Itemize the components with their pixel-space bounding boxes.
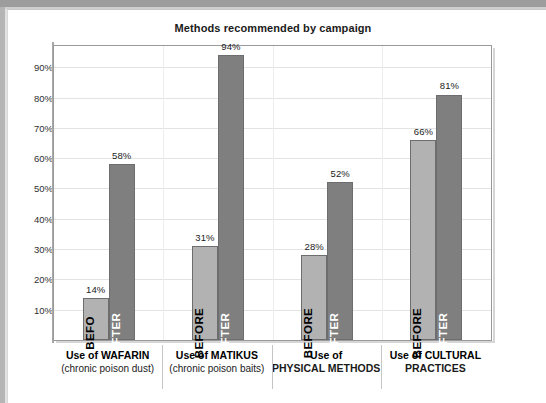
y-axis-tick-label: 10% <box>7 304 53 315</box>
category-label-line1: Use of WAFARIN <box>53 349 162 362</box>
category-label-line2: PRACTICES <box>381 362 490 375</box>
bar-after: AFTER <box>327 182 353 340</box>
bar-value-label: 31% <box>195 232 214 243</box>
bar-value-label: 28% <box>305 241 324 252</box>
category-label: Use of CULTURALPRACTICES <box>381 349 490 375</box>
y-axis-tick-label: 50% <box>7 183 53 194</box>
y-axis-tick-label: 20% <box>7 274 53 285</box>
bar-after: AFTER <box>436 95 462 341</box>
y-axis: 10%20%30%40%50%60%70%80%90% <box>0 45 53 342</box>
category-separator <box>381 345 382 389</box>
y-axis-tick-label: 80% <box>7 92 53 103</box>
bar-value-label: 81% <box>440 80 459 91</box>
page-top-edge <box>0 0 546 7</box>
chart-title: Methods recommended by campaign <box>0 22 546 34</box>
plot-right-shadow <box>493 48 495 342</box>
bar-value-label: 58% <box>112 150 131 161</box>
category-label: Use ofPHYSICAL METHODS <box>272 349 381 375</box>
category-label: Use of MATIKUS(chronic poison baits) <box>162 349 271 375</box>
bar-before: BEFORE <box>301 255 327 340</box>
gridline-vertical <box>163 46 164 340</box>
category-label-line1: Use of MATIKUS <box>162 349 271 362</box>
bar-after: AFTER <box>218 55 244 340</box>
bar-value-label: 94% <box>221 41 240 52</box>
gridline-vertical <box>382 46 383 340</box>
bar-value-label: 14% <box>86 284 105 295</box>
category-label-line2: (chronic poison baits) <box>162 362 271 375</box>
category-separator <box>272 345 273 389</box>
y-axis-tick-label: 70% <box>7 122 53 133</box>
gridline-vertical <box>273 46 274 340</box>
y-axis-tick-label: 60% <box>7 153 53 164</box>
plot-area: BEFO14%AFTER58%BEFORE31%AFTER94%BEFORE28… <box>53 45 492 341</box>
bar-value-label: 52% <box>331 168 350 179</box>
y-axis-tick-label: 40% <box>7 213 53 224</box>
category-label-line2: (chronic poison dust) <box>53 362 162 375</box>
y-axis-tick-label: 90% <box>7 62 53 73</box>
category-label-line2: PHYSICAL METHODS <box>272 362 381 375</box>
bar-after: AFTER <box>109 164 135 340</box>
category-label: Use of WAFARIN(chronic poison dust) <box>53 349 162 375</box>
category-separator <box>162 345 163 389</box>
scanned-page: Methods recommended by campaign 10%20%30… <box>0 0 546 403</box>
category-label-line1: Use of <box>272 349 381 362</box>
y-axis-tick-label: 30% <box>7 244 53 255</box>
bar-before: BEFORE <box>192 246 218 340</box>
category-axis-labels: Use of WAFARIN(chronic poison dust)Use o… <box>53 343 493 395</box>
bar-before: BEFORE <box>410 140 436 340</box>
category-label-line1: Use of CULTURAL <box>381 349 490 362</box>
bar-value-label: 66% <box>414 126 433 137</box>
bar-before: BEFO <box>83 298 109 340</box>
